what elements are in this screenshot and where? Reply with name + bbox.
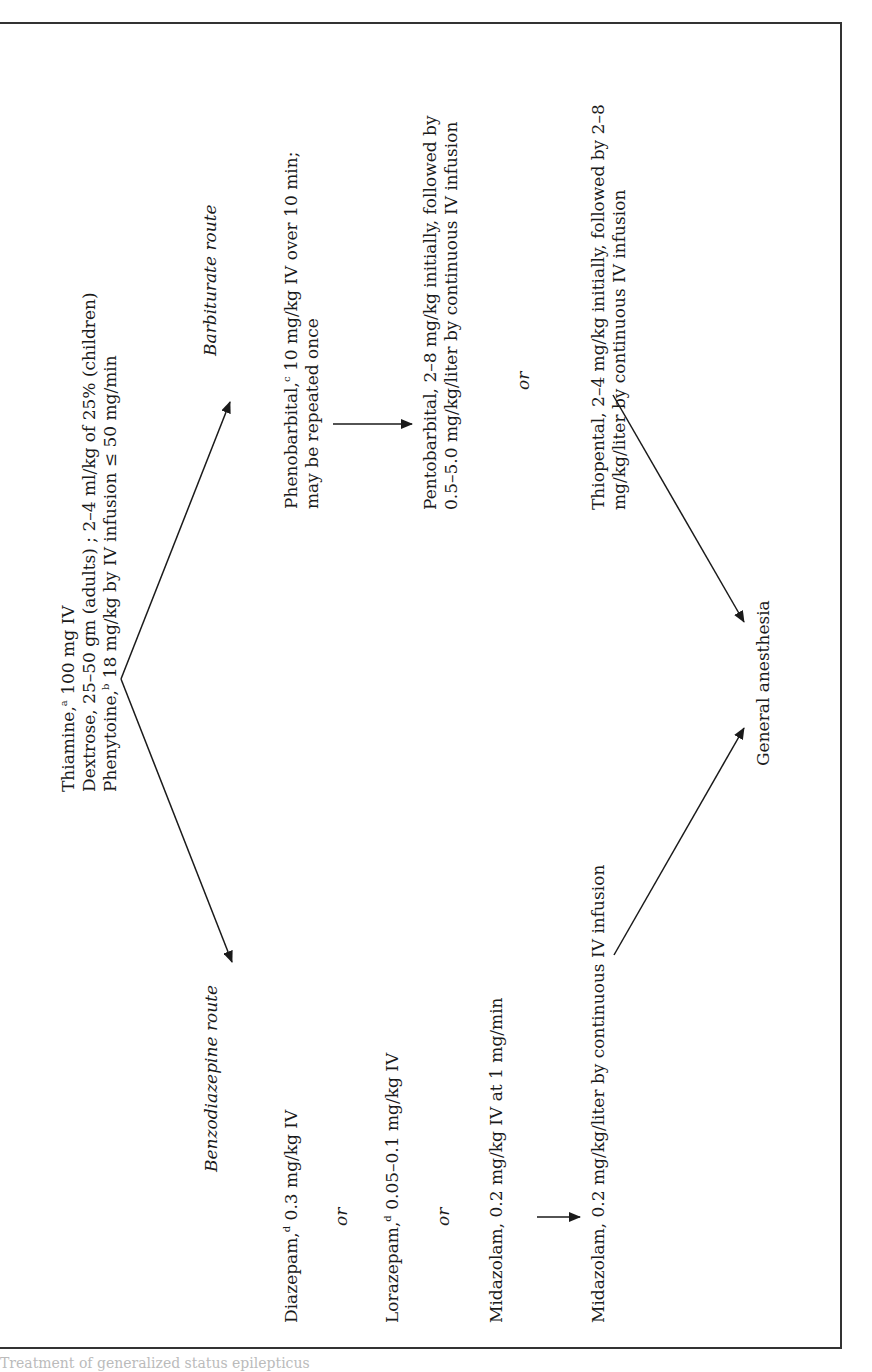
general-anesthesia-node: General anesthesia: [753, 600, 774, 766]
footnote-b: b: [100, 684, 111, 690]
pentobarbital-option-line2: 0.5–5.0 mg/kg/liter by continuous IV inf…: [441, 122, 462, 510]
or-label-benzo-2: or: [433, 1208, 454, 1226]
arrow-to-barbiturate: [121, 402, 230, 679]
figure-caption-fragment: Treatment of generalized status epilepti…: [0, 1355, 310, 1371]
footnote-d-2: d: [382, 1215, 393, 1221]
arrow-midazolam-to-anesthesia: [614, 728, 744, 955]
footnote-a: a: [58, 700, 69, 706]
midazolam-bolus-option: Midazolam, 0.2 mg/kg IV at 1 mg/min: [486, 997, 507, 1323]
footnote-c: c: [281, 376, 292, 382]
pentobarbital-option-line1: Pentobarbital, 2–8 mg/kg initially, foll…: [420, 115, 441, 510]
or-label-benzo-1: or: [331, 1208, 352, 1226]
start-step-phenytoine: Phenytoine,b 18 mg/kg by IV infusion ≤ 5…: [100, 355, 121, 792]
phenobarbital-step-line1: Phenobarbital,c 10 mg/kg IV over 10 min;: [281, 152, 302, 509]
arrow-to-benzodiazepine: [121, 679, 232, 962]
or-label-barbiturate: or: [513, 372, 534, 390]
footnote-d: d: [281, 1226, 292, 1232]
lorazepam-option: Lorazepam,d 0.05–0.1 mg/kg IV: [382, 1053, 403, 1323]
phenobarbital-step-line2: may be repeated once: [302, 318, 323, 509]
arrow-thiopental-to-anesthesia: [613, 395, 744, 622]
start-step-dextrose: Dextrose, 25–50 gm (adults) ; 2–4 ml/kg …: [79, 292, 100, 792]
benzodiazepine-route-heading: Benzodiazepine route: [201, 985, 222, 1172]
diazepam-option: Diazepam,d 0.3 mg/kg IV: [281, 1110, 302, 1323]
barbiturate-route-heading: Barbiturate route: [200, 204, 221, 356]
thiopental-option-line1: Thiopental, 2–4 mg/kg initially, followe…: [588, 104, 609, 510]
start-step-thiamine: Thiamine,a 100 mg IV: [58, 606, 79, 792]
midazolam-infusion-step: Midazolam, 0.2 mg/kg/liter by continuous…: [588, 865, 609, 1323]
thiopental-option-line2: mg/kg/liter by continuous IV infusion: [609, 190, 630, 510]
